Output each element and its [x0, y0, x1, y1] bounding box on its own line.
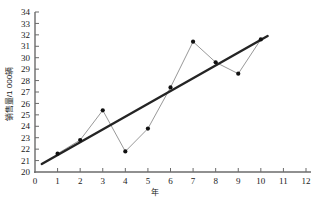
y-tick-label: 28: [21, 76, 31, 86]
y-tick-label: 22: [21, 144, 30, 154]
data-point: [55, 152, 59, 156]
x-tick-label: 6: [168, 176, 173, 186]
data-point: [101, 108, 105, 112]
y-tick-label: 33: [21, 19, 31, 29]
y-tick-label: 20: [21, 167, 31, 177]
x-tick-label: 12: [302, 176, 311, 186]
y-tick-label: 30: [21, 53, 31, 63]
y-tick-label: 31: [21, 41, 30, 51]
x-tick-label: 1: [55, 176, 60, 186]
x-tick-label: 10: [256, 176, 266, 186]
data-point: [168, 85, 172, 89]
x-tick-label: 7: [191, 176, 196, 186]
x-tick-label: 2: [78, 176, 83, 186]
y-tick-label: 21: [21, 156, 30, 166]
y-axis-tick-labels: 202122232425262728293031323334: [21, 7, 31, 177]
x-tick-label: 9: [236, 176, 241, 186]
trend-line: [42, 36, 268, 164]
x-axis-title: 年: [151, 187, 159, 197]
y-tick-label: 26: [21, 99, 31, 109]
x-tick-label: 8: [213, 176, 218, 186]
y-tick-label: 32: [21, 30, 30, 40]
x-axis-tick-labels: 0123456789101112: [33, 176, 311, 186]
data-point: [123, 149, 127, 153]
y-tick-label: 27: [21, 87, 31, 97]
y-axis-title: 销售量/1 000辆: [4, 67, 14, 121]
y-tick-label: 29: [21, 64, 31, 74]
y-tick-label: 25: [21, 110, 31, 120]
y-tick-label: 24: [21, 121, 31, 131]
data-point: [78, 138, 82, 142]
x-tick-label: 5: [146, 176, 151, 186]
x-tick-label: 11: [279, 176, 288, 186]
y-tick-label: 23: [21, 133, 31, 143]
chart-container: 202122232425262728293031323334 012345678…: [0, 0, 313, 198]
x-tick-label: 3: [101, 176, 106, 186]
data-point: [214, 60, 218, 64]
data-point: [146, 126, 150, 130]
x-tick-label: 0: [33, 176, 38, 186]
data-point: [236, 72, 240, 76]
data-point: [259, 37, 263, 41]
y-tick-label: 34: [21, 7, 31, 17]
line-chart: 202122232425262728293031323334 012345678…: [0, 0, 313, 198]
data-point: [191, 40, 195, 44]
x-tick-label: 4: [123, 176, 128, 186]
